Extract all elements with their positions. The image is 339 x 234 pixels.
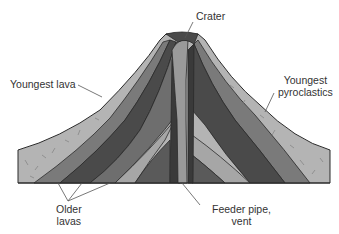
older-lavas-label: Older lavas	[56, 203, 82, 227]
youngest-pyroclastics-label-line1: Youngest	[278, 74, 333, 86]
feeder-pipe-label: Feeder pipe, vent	[212, 203, 271, 227]
youngest-pyroclastics-label: Youngest pyroclastics	[278, 74, 333, 98]
leader-older-lava-3	[68, 183, 110, 201]
feeder-pipe-label-line2: vent	[212, 215, 271, 227]
feeder-pipe-label-line1: Feeder pipe,	[212, 203, 271, 215]
youngest-pyroclastics-label-line2: pyroclastics	[278, 86, 333, 98]
youngest-lava-label: Youngest lava	[10, 78, 76, 90]
leader-older-lava-1	[58, 183, 68, 201]
leader-youngest-lava	[78, 85, 102, 97]
leader-youngest-pyroclastics	[265, 93, 274, 112]
leader-feeder-pipe	[182, 183, 200, 205]
older-lavas-label-line2: lavas	[56, 215, 82, 227]
vent-wall-right	[188, 44, 194, 183]
crater-label: Crater	[196, 10, 225, 22]
older-lavas-label-line1: Older	[56, 203, 82, 215]
volcano-cross-section-diagram	[0, 0, 339, 234]
